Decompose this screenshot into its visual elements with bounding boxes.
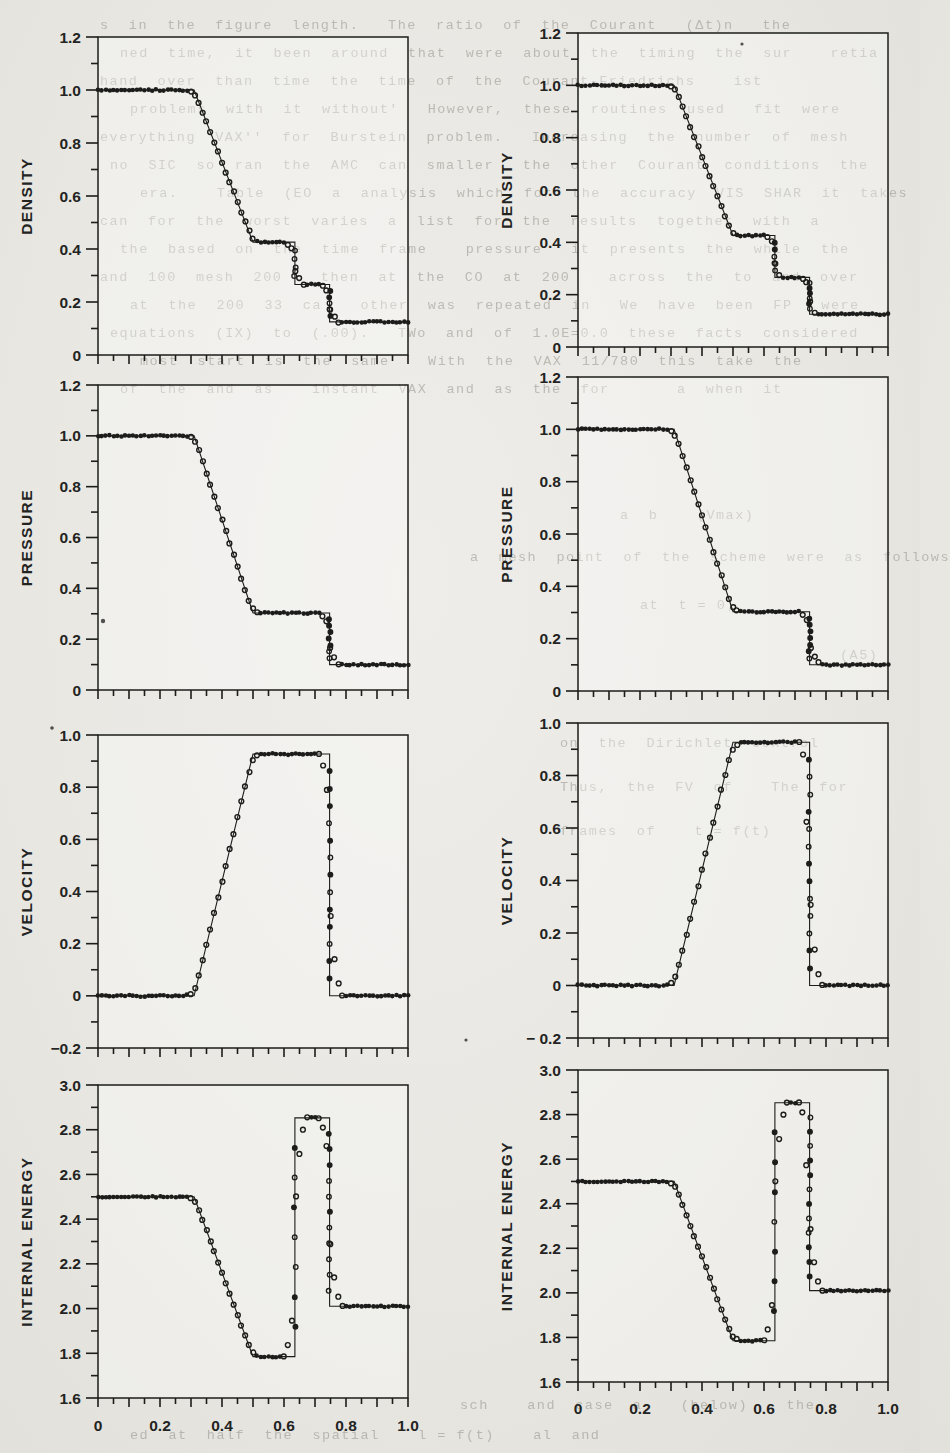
y-tick-label: 0.4: [59, 241, 81, 258]
y-tick-label: 2.4: [539, 1195, 561, 1212]
y-tick-label: 0.8: [59, 135, 81, 152]
axis-title: INTERNAL ENERGY: [498, 1141, 515, 1311]
y-tick-label: 0.2: [539, 630, 561, 647]
y-tick-label: 2.4: [59, 1211, 81, 1228]
x-tick-label: 1.0: [877, 1400, 899, 1417]
plot-internal-energy-left: 1.61.82.02.22.42.62.83.000.20.40.60.81.0…: [18, 1077, 419, 1435]
plot-internal-energy-right: 1.61.82.02.22.42.62.83.000.20.40.60.81.0…: [498, 1062, 899, 1418]
axis-title: PRESSURE: [18, 489, 35, 586]
scan-speck: [740, 42, 743, 45]
y-tick-label: 0.2: [59, 631, 81, 648]
y-tick-label: 1.2: [59, 29, 81, 46]
y-tick-label: 0.6: [539, 526, 561, 543]
plot-density-right: 00.20.40.60.81.01.2DENSITY: [498, 25, 890, 357]
y-tick-label: 1.2: [539, 369, 561, 386]
x-tick-label: 0.2: [149, 1417, 171, 1434]
y-tick-label: − 0.2: [526, 1030, 561, 1047]
y-tick-label: 0.2: [539, 286, 561, 303]
x-tick-label: 1.0: [397, 1417, 419, 1434]
x-tick-label: 0: [94, 1417, 103, 1434]
y-tick-label: 0: [72, 987, 81, 1004]
scan-speck: [464, 1038, 467, 1041]
x-tick-label: 0.2: [629, 1400, 651, 1417]
plot-velocity-left: −0.200.20.40.60.81.0VELOCITY: [18, 727, 410, 1058]
y-tick-label: 1.6: [539, 1374, 561, 1391]
axis-title: PRESSURE: [498, 485, 515, 582]
y-tick-label: 1.6: [59, 1390, 81, 1407]
y-tick-label: 0.2: [59, 294, 81, 311]
plot-frame: [578, 33, 888, 347]
y-tick-label: 0.8: [59, 779, 81, 796]
plot-frame: [578, 723, 888, 1038]
y-tick-label: 1.0: [539, 421, 561, 438]
y-tick-label: 1.8: [59, 1345, 81, 1362]
y-tick-label: 1.0: [539, 77, 561, 94]
y-tick-label: 1.0: [59, 427, 81, 444]
y-tick-label: 0.8: [539, 129, 561, 146]
y-tick-label: 0.6: [539, 820, 561, 837]
x-tick-label: 0.6: [273, 1417, 295, 1434]
scan-speck: [50, 726, 54, 730]
plot-frame: [98, 385, 408, 690]
y-tick-label: 0.2: [539, 925, 561, 942]
y-tick-label: −0.2: [50, 1040, 81, 1057]
y-tick-label: 1.8: [539, 1329, 561, 1346]
plot-frame: [578, 377, 888, 691]
axis-title: INTERNAL ENERGY: [18, 1156, 35, 1326]
plot-frame: [98, 1085, 408, 1398]
y-tick-label: 0: [72, 347, 81, 364]
y-tick-label: 1.2: [539, 25, 561, 42]
y-tick-label: 1.2: [59, 377, 81, 394]
y-tick-label: 0.8: [539, 473, 561, 490]
plot-velocity-right: − 0.200.20.40.60.81.0VELOCITY: [498, 715, 890, 1048]
y-tick-label: 2.6: [539, 1151, 561, 1168]
y-tick-label: 1.0: [59, 82, 81, 99]
y-tick-label: 0.6: [539, 182, 561, 199]
y-tick-label: 0.6: [59, 831, 81, 848]
y-tick-label: 2.2: [59, 1255, 81, 1272]
plot-density-left: 00.20.40.60.81.01.2DENSITY: [18, 29, 410, 365]
x-tick-label: 0.4: [691, 1400, 713, 1417]
y-tick-label: 0.4: [59, 580, 81, 597]
x-tick-label: 0.8: [335, 1417, 357, 1434]
x-tick-label: 0.6: [753, 1400, 775, 1417]
y-tick-label: 0: [552, 683, 561, 700]
y-tick-label: 0.8: [59, 478, 81, 495]
y-tick-label: 0.4: [59, 883, 81, 900]
x-tick-label: 0.4: [211, 1417, 233, 1434]
y-tick-label: 1.0: [539, 715, 561, 732]
y-tick-label: 1.0: [59, 727, 81, 744]
axis-title: VELOCITY: [498, 836, 515, 926]
plot-pressure-right: 00.20.40.60.81.01.2PRESSURE: [498, 369, 891, 701]
y-tick-label: 3.0: [59, 1077, 81, 1094]
y-tick-label: 0: [552, 977, 561, 994]
y-tick-label: 2.0: [539, 1284, 561, 1301]
y-tick-label: 0.6: [59, 529, 81, 546]
axis-title: VELOCITY: [18, 847, 35, 937]
scan-speck: [101, 619, 105, 623]
y-tick-label: 2.0: [59, 1300, 81, 1317]
plot-frame: [578, 1070, 888, 1382]
y-tick-label: 0.4: [539, 872, 561, 889]
y-tick-label: 2.8: [59, 1121, 81, 1138]
y-tick-label: 0.4: [539, 578, 561, 595]
y-tick-label: 0.8: [539, 767, 561, 784]
y-tick-label: 2.2: [539, 1240, 561, 1257]
plot-pressure-left: 00.20.40.60.81.01.2PRESSURE: [18, 377, 411, 700]
y-tick-label: 0: [72, 682, 81, 699]
axis-title: DENSITY: [18, 157, 35, 235]
y-tick-label: 0.4: [539, 234, 561, 251]
plot-frame: [98, 37, 408, 355]
y-tick-label: 0: [552, 339, 561, 356]
x-tick-label: 0.8: [815, 1400, 837, 1417]
axis-title: DENSITY: [498, 151, 515, 229]
y-tick-label: 0.6: [59, 188, 81, 205]
y-tick-label: 3.0: [539, 1062, 561, 1079]
y-tick-label: 0.2: [59, 935, 81, 952]
x-tick-label: 0: [574, 1400, 583, 1417]
y-tick-label: 2.8: [539, 1106, 561, 1123]
y-tick-label: 2.6: [59, 1166, 81, 1183]
plot-frame: [98, 735, 408, 1048]
